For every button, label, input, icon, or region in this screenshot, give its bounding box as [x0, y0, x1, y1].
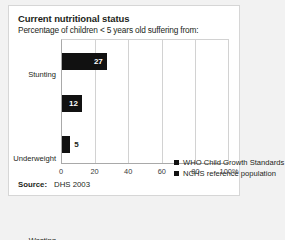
x-tick-label: 100% — [220, 167, 239, 176]
gridline — [228, 40, 229, 163]
x-tick-label: 40 — [124, 167, 132, 176]
x-tick-label: 20 — [90, 167, 98, 176]
category-label: Underweight — [13, 150, 56, 167]
category-label: Stunting — [28, 66, 56, 83]
bar-group: 27Stunting12Underweight5Wasting — [62, 40, 228, 163]
bar-row: 5Wasting — [62, 40, 228, 163]
plot-area: 27Stunting12Underweight5Wasting WHO Chil… — [61, 39, 229, 164]
x-tick-label: 80 — [191, 167, 199, 176]
x-tick-label: 60 — [158, 167, 166, 176]
bar-value-label: 5 — [74, 136, 78, 153]
bar[interactable]: 5Wasting — [62, 136, 70, 153]
chart-subtitle: Percentage of children < 5 years old suf… — [18, 25, 198, 35]
chart-title: Current nutritional status — [18, 13, 129, 24]
source-value: DHS 2003 — [54, 180, 90, 189]
x-axis: 020406080100% — [61, 165, 229, 177]
x-tick-label: 0 — [59, 167, 63, 176]
source-label: Source: — [18, 180, 47, 189]
source-note: Source: DHS 2003 — [18, 180, 90, 189]
figure-panel: Current nutritional status Percentage of… — [8, 5, 240, 196]
